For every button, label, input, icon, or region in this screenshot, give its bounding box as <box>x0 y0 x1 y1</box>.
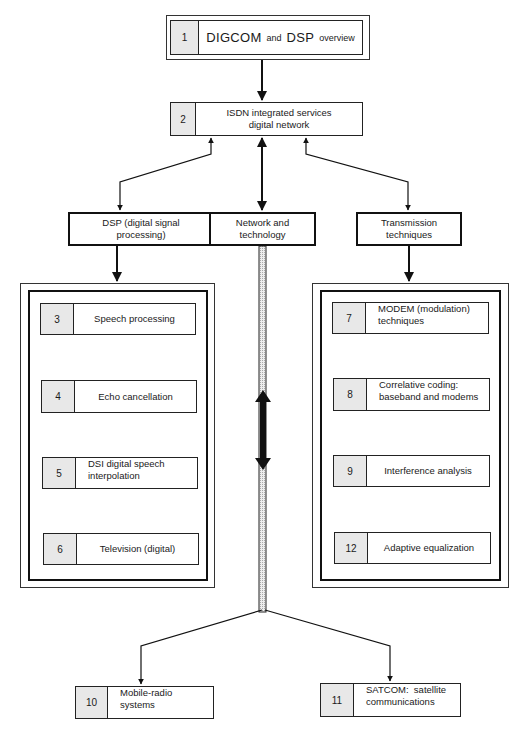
item-label: SATCOM: satellite communications <box>354 684 460 716</box>
item-label: Mobile-radio systems <box>108 687 213 718</box>
box-number: 5 <box>43 458 76 488</box>
transmission-item-12: 12 Adaptive equalization <box>334 532 491 564</box>
item-label: MODEM (modulation) techniques <box>366 303 488 333</box>
box-number: 4 <box>42 381 75 412</box>
dsp-item-5: 5 DSI digital speech interpolation <box>42 457 198 489</box>
box-number: 12 <box>335 533 368 563</box>
item-label: Interference analysis <box>367 456 489 486</box>
transmission-item-8: 8 Correlative coding: baseband and modem… <box>333 378 490 411</box>
box-number: 10 <box>76 687 108 718</box>
network-branch-header: Network and technology <box>209 212 316 246</box>
item-label: Correlative coding: baseband and modems <box>367 379 489 410</box>
box-number: 2 <box>171 103 196 135</box>
satcom-box: 11 SATCOM: satellite communications <box>320 683 461 717</box>
mobile-radio-box: 10 Mobile-radio systems <box>75 686 214 719</box>
isdn-box: 2 ISDN integrated services digital netwo… <box>170 102 363 136</box>
item-label: Speech processing <box>74 304 195 334</box>
box-number: 7 <box>333 303 366 333</box>
dsp-item-6: 6 Television (digital) <box>43 533 199 565</box>
box-number: 9 <box>334 456 367 486</box>
box-number: 3 <box>41 304 74 334</box>
box-number: 8 <box>334 379 367 410</box>
dsp-branch-header: DSP (digital signal processing) <box>68 212 214 246</box>
item-label: Echo cancellation <box>75 381 196 412</box>
item-label: Television (digital) <box>77 534 198 564</box>
overview-box: 1 DIGCOM and DSP overview <box>170 20 363 55</box>
item-label: Adaptive equalization <box>368 533 490 563</box>
item-label: DSI digital speech interpolation <box>76 458 197 488</box>
transmission-item-7: 7 MODEM (modulation) techniques <box>332 302 489 334</box>
dsp-item-3: 3 Speech processing <box>40 303 196 335</box>
dsp-item-4: 4 Echo cancellation <box>41 380 197 413</box>
box-number: 1 <box>171 21 199 54</box>
transmission-branch-header: Transmission techniques <box>356 212 462 246</box>
overview-title: DIGCOM and DSP overview <box>199 21 362 54</box>
transmission-item-9: 9 Interference analysis <box>333 455 490 487</box>
box-number: 6 <box>44 534 77 564</box>
isdn-label: ISDN integrated services digital network <box>196 103 362 135</box>
box-number: 11 <box>321 684 354 716</box>
